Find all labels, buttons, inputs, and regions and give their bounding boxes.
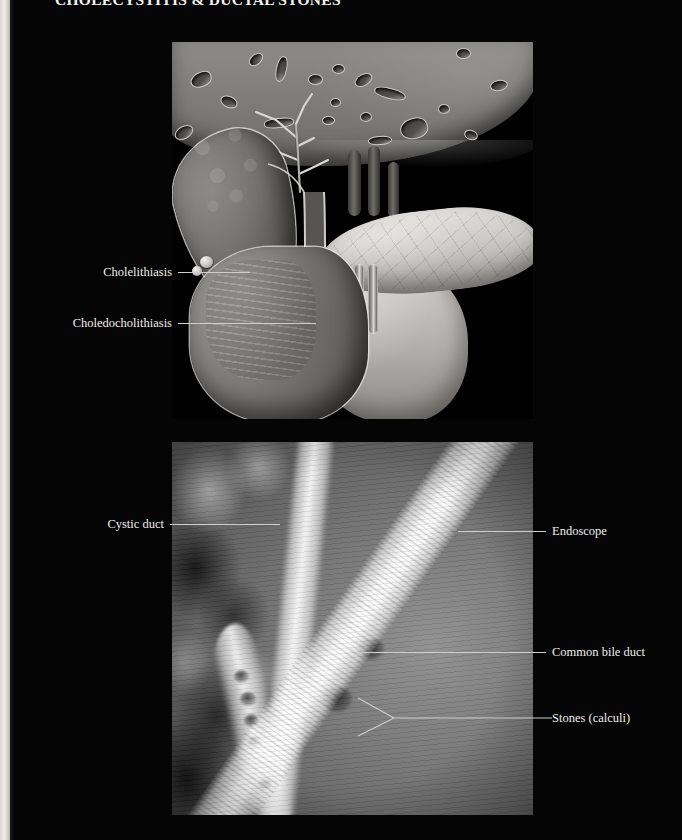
page-title: CHOLECYSTITIS & DUCTAL STONES [55,0,341,9]
leader-line-cholelithiasis [178,272,250,273]
label-endoscope: Endoscope [552,525,682,538]
ercp-cholangiogram [172,442,533,815]
label-cystic-duct: Cystic duct [0,518,170,531]
portal-vessel [348,150,361,216]
label-cholelithiasis: Cholelithiasis [0,266,178,279]
leader-line-endoscope [458,531,546,532]
page-edge-strip [0,0,10,840]
page-edge-shadow [10,0,16,840]
label-common-bile-duct: Common bile duct [552,646,682,659]
anatomy-illustration [172,42,533,419]
leader-line-stones-calculi [352,694,552,740]
portal-vessel [368,146,380,216]
portal-vessel [388,162,399,218]
label-choledocholithiasis: Choledocholithiasis [0,317,178,330]
anatomy-canvas [172,42,533,419]
pancreatic-duct [368,264,378,334]
leader-line-cystic-duct [170,524,280,525]
xray-vignette [172,442,533,815]
duodenal-folds [206,260,316,380]
label-stones-calculi: Stones (calculi) [552,712,682,725]
leader-line-choledocholithiasis [178,323,316,324]
leader-line-common-bile-duct [360,652,546,653]
page-canvas: CHOLECYSTITIS & DUCTAL STONES [0,0,682,840]
